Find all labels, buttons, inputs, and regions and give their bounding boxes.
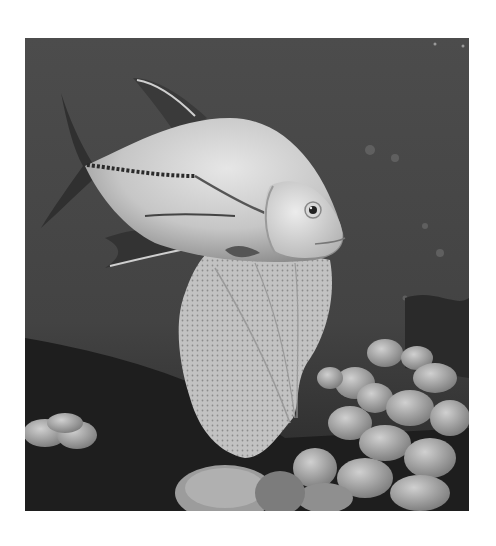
photo: Grayscale underwater photograph of a jac… <box>25 38 469 511</box>
coral-bottom <box>175 465 305 511</box>
